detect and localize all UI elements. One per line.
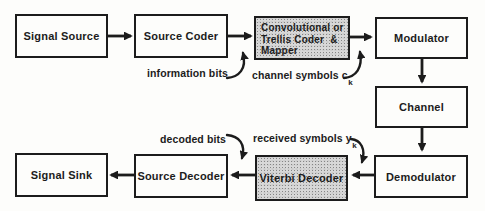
block-label: Convolutional or Trellis Coder & Mapper [261,22,344,57]
label-subscript: k [352,141,357,150]
label-text: received symbols y [253,132,352,144]
label-text: channel symbols c [252,69,348,81]
block-label: Channel [399,101,444,113]
label-received-symbols: received symbols yk [253,132,356,147]
block-label: Signal Source [24,30,100,42]
block-label-line1: Convolutional or [261,22,344,34]
label-text: decoded bits [160,133,226,145]
diagram-canvas: Signal Source Source Coder Convolutional… [0,0,485,211]
block-label-line2: Trellis Coder & [261,34,344,46]
block-demodulator: Demodulator [374,155,468,198]
block-label: Source Decoder [137,170,224,182]
label-channel-symbols: channel symbols ck [252,69,352,84]
block-label-line3: Mapper [261,45,344,57]
block-source-decoder: Source Decoder [134,154,228,198]
block-signal-sink: Signal Sink [15,153,108,197]
label-decoded-bits: decoded bits [160,133,226,145]
pointer-decoded-bits [227,135,243,158]
block-label: Source Coder [144,30,219,42]
block-label: Modulator [394,32,449,44]
block-signal-source: Signal Source [15,14,108,58]
block-modulator: Modulator [375,17,468,59]
block-convolutional-trellis-coder-mapper: Convolutional or Trellis Coder & Mapper [254,16,350,60]
label-subscript: k [348,78,353,87]
block-channel: Channel [375,86,468,128]
block-viterbi-decoder: Viterbi Decoder [255,155,348,201]
label-text: information bits [147,67,228,79]
block-label: Signal Sink [31,169,93,181]
label-information-bits: information bits [147,67,228,79]
block-label: Viterbi Decoder [259,172,343,184]
block-source-coder: Source Coder [134,14,228,58]
block-label: Demodulator [386,171,456,183]
pointer-information-bits [227,53,244,78]
